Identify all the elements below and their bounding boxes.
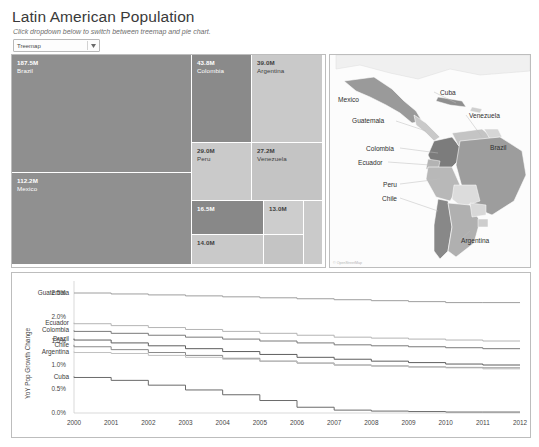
map-country-label: Peru <box>383 181 397 188</box>
x-axis-tick-label: 2002 <box>137 419 159 426</box>
y-axis-tick-label: 0.5% <box>32 385 66 392</box>
x-axis-tick-label: 2012 <box>509 419 531 426</box>
treemap-tile[interactable]: 39.0MArgentina <box>252 55 323 143</box>
chevron-down-icon[interactable] <box>87 41 99 50</box>
x-axis-tick-label: 2001 <box>100 419 122 426</box>
series-label: Guatemala <box>12 289 69 296</box>
series-label: Ecuador <box>12 319 69 326</box>
x-axis-tick-label: 2006 <box>286 419 308 426</box>
treemap-tile-value: 14.0M <box>197 239 215 246</box>
treemap-tile[interactable]: 29.0MPeru <box>192 143 252 201</box>
treemap-tile-value: 43.8M <box>197 59 215 66</box>
treemap-tile-label: Mexico <box>17 185 37 192</box>
map-country-label: Venezuela <box>469 112 500 119</box>
treemap-tile[interactable]: 187.5MBrazil <box>12 55 192 173</box>
map-country-label: Cuba <box>440 89 456 96</box>
line-chart-plot <box>12 273 528 435</box>
treemap-tile[interactable] <box>304 201 323 265</box>
x-axis-tick-label: 2008 <box>360 419 382 426</box>
treemap-tile-label: Colombia <box>197 67 224 74</box>
series-label: Cuba <box>12 373 69 380</box>
page-title: Latin American Population <box>12 8 195 26</box>
treemap-tile[interactable]: 27.2MVenezuela <box>252 143 323 201</box>
treemap-tile[interactable]: 43.8MColombia <box>192 55 252 143</box>
line-series[interactable] <box>74 323 520 341</box>
y-axis-tick-label: 1.0% <box>32 361 66 368</box>
treemap-tile-label: Peru <box>197 155 210 162</box>
treemap-tile[interactable]: 14.0M <box>192 235 264 265</box>
x-axis-tick-label: 2010 <box>435 419 457 426</box>
treemap-chart[interactable]: 187.5MBrazil112.2MMexico43.8MColombia39.… <box>11 54 326 268</box>
chart-type-value: Treemap <box>14 43 87 49</box>
map-attribution: © OpenStreetMap <box>333 261 362 265</box>
dashboard-header: Latin American Population Click dropdown… <box>0 0 539 54</box>
x-axis-tick-label: 2005 <box>249 419 271 426</box>
x-axis-tick-label: 2004 <box>212 419 234 426</box>
treemap-tile-value: 27.2M <box>257 147 275 154</box>
y-axis-tick-label: 0.0% <box>32 409 66 416</box>
series-label: Argentina <box>12 348 69 355</box>
treemap-tile-value: 187.5M <box>17 59 38 66</box>
line-series[interactable] <box>74 377 520 413</box>
chart-type-dropdown[interactable]: Treemap <box>13 39 100 52</box>
treemap-tile[interactable]: 13.0M <box>264 201 304 235</box>
series-label: Colombia <box>12 326 69 333</box>
map-country-label: Colombia <box>366 145 394 152</box>
map-country-label: Chile <box>382 195 397 202</box>
map-country-label: Guatemala <box>352 117 384 124</box>
treemap-tile-value: 29.0M <box>197 147 215 154</box>
latin-america-map[interactable]: © OpenStreetMap MexicoCubaGuatemalaVenez… <box>329 54 531 268</box>
treemap-tile-value: 16.5M <box>197 205 215 212</box>
treemap-tile-label: Venezuela <box>257 155 287 162</box>
treemap-tile-label: Brazil <box>17 67 33 74</box>
treemap-tile-value: 13.0M <box>269 205 287 212</box>
treemap-tile-value: 39.0M <box>257 59 275 66</box>
treemap-tile[interactable] <box>264 235 304 265</box>
page-subtitle: Click dropdown below to switch between t… <box>13 28 211 35</box>
growth-line-chart[interactable]: 0.0%0.5%1.0%1.5%2.0%2.5%YoY Pop Growth C… <box>11 272 531 438</box>
line-series[interactable] <box>74 293 520 303</box>
x-axis-tick-label: 2003 <box>175 419 197 426</box>
x-axis-tick-label: 2009 <box>398 419 420 426</box>
map-country-label: Mexico <box>338 96 359 103</box>
x-axis-tick-label: 2007 <box>323 419 345 426</box>
map-country-label: Ecuador <box>358 159 383 166</box>
dashboard-root: Latin American Population Click dropdown… <box>0 0 539 447</box>
treemap-tile-value: 112.2M <box>17 177 38 184</box>
map-country-label: Brazil <box>490 144 507 151</box>
map-country-label: Argentina <box>461 237 489 244</box>
x-axis-tick-label: 2011 <box>472 419 494 426</box>
treemap-tile[interactable]: 112.2MMexico <box>12 173 192 265</box>
treemap-tile-label: Argentina <box>257 67 284 74</box>
x-axis-tick-label: 2000 <box>63 419 85 426</box>
treemap-tile[interactable]: 16.5M <box>192 201 264 235</box>
